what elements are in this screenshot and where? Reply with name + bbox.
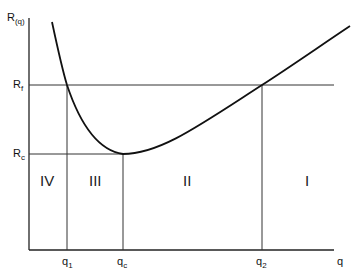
- x-axis-label: q: [337, 256, 343, 267]
- q2-label: q2: [256, 256, 267, 270]
- region-ii-label: II: [183, 172, 191, 189]
- region-iv-label: IV: [40, 172, 54, 189]
- q1-label: q1: [62, 256, 73, 270]
- rc-label: Rc: [13, 148, 25, 162]
- region-i-label: I: [305, 172, 309, 189]
- diagram-canvas: [0, 0, 355, 273]
- y-axis-label: R(q): [7, 12, 25, 26]
- rf-label: Rf: [13, 79, 23, 93]
- region-iii-label: III: [89, 172, 102, 189]
- qc-label: qc: [117, 256, 127, 270]
- r-curve: [52, 22, 350, 154]
